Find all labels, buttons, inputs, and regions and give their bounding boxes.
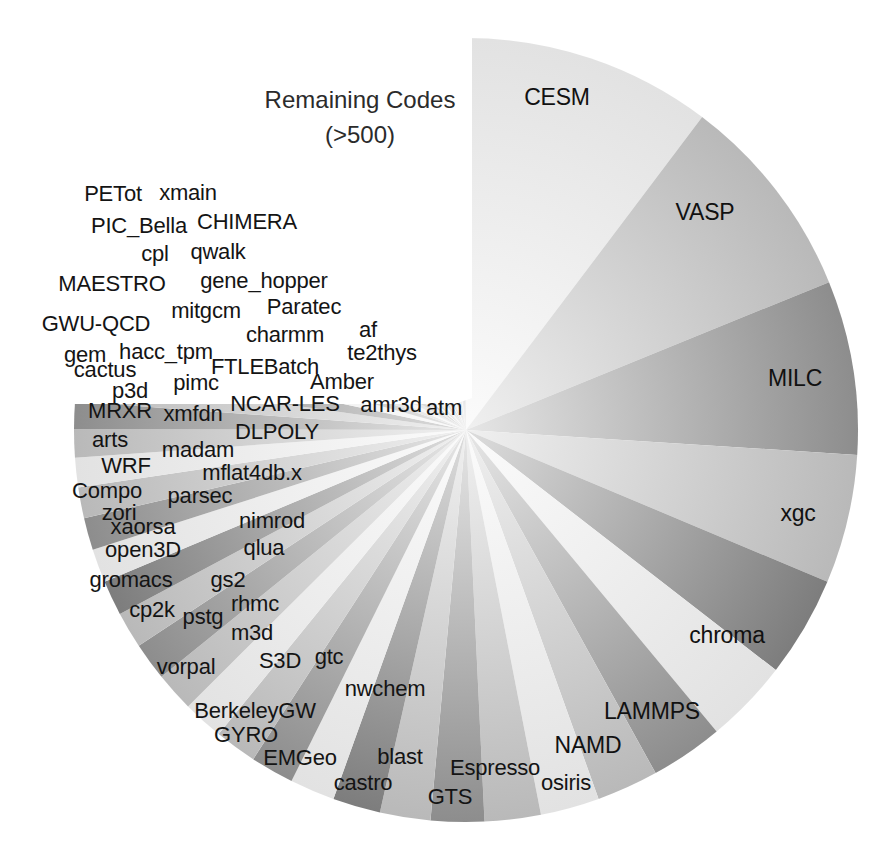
slice-label: BerkeleyGW [194,700,315,722]
slice-label: NCAR-LES [230,393,340,415]
slice-label: Paratec [267,296,341,318]
slice-label: hacc_tpm [119,341,213,363]
slice-label: mitgcm [171,300,241,322]
slice-label: mflat4db.x [202,462,302,484]
slice-label: VASP [676,201,735,224]
slice-label: LAMMPS [604,700,700,723]
slice-label: DLPOLY [235,421,319,443]
slice-label: gs2 [211,569,246,591]
slice-label: castro [334,772,393,794]
slice-label: chroma [689,624,765,647]
slice-label: EMGeo [263,747,337,769]
slice-label: xmain [159,182,217,204]
slice-label: MAESTRO [58,273,165,295]
slice-label: Espresso [450,757,540,779]
slice-label: amr3d [360,394,421,416]
slice-label: FTLEBatch [211,356,319,378]
remaining-codes-line1: Remaining Codes [265,86,456,113]
slice-label: Amber [310,371,374,393]
slice-label: MRXR [88,400,152,422]
slice-label: nwchem [345,678,426,700]
remaining-codes-annotation: Remaining Codes (>500) [265,83,456,153]
slice-label: madam [162,439,234,461]
slice-label: pstg [183,606,224,628]
slice-label: GTS [428,786,473,808]
slice-label: gromacs [90,569,173,591]
remaining-codes-line2: (>500) [265,118,456,153]
slice-label: charmm [246,324,324,346]
slice-label: CESM [524,86,590,109]
slice-label: qwalk [190,241,245,263]
slice-label: gene_hopper [200,270,327,292]
slice-label: PETot [84,183,142,205]
slice-label: open3D [105,539,181,561]
slice-label: atm [426,397,462,419]
slice-label: parsec [168,485,233,507]
slice-label: GYRO [214,724,278,746]
slice-label: xgc [780,502,815,525]
slice-label: gem [64,344,106,366]
slice-label: blast [377,746,422,768]
slice-label: arts [92,429,128,451]
slice-label: GWU-QCD [42,313,151,335]
slice-label: nimrod [239,510,305,532]
slice-label: Compo [72,480,142,502]
slice-label: CHIMERA [197,211,297,233]
slice-label: NAMD [555,734,622,757]
slice-label: WRF [101,455,151,477]
slice-label: cp2k [129,599,175,621]
slice-label: PIC_Bella [91,215,187,237]
slice-label: qlua [244,537,285,559]
slice-label: af [359,319,377,341]
slice-label: cpl [141,243,169,265]
slice-label: vorpal [157,656,216,678]
slice-label: osiris [541,772,591,794]
slice-label: zori [102,502,137,524]
slice-label: rhmc [231,593,279,615]
slice-label: MILC [768,367,822,390]
pie-chart-figure: Remaining Codes (>500) CESMVASPMILCxgcch… [0,0,890,853]
slice-label: gtc [315,646,344,668]
slice-label: te2thys [347,342,417,364]
slice-label: p3d [112,380,148,402]
slice-label: m3d [231,622,273,644]
slice-label: S3D [259,650,301,672]
slice-label: xmfdn [164,403,223,425]
